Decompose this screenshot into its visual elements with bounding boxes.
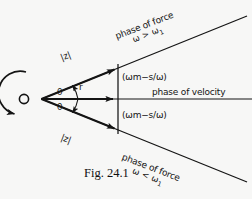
upper-angle-label: θ <box>57 88 62 97</box>
lower-angle-arc <box>73 99 79 113</box>
lower-angle-label: θ <box>57 103 62 112</box>
figure-caption: Fig. 24.1 <box>84 166 129 181</box>
lower-force-subscript: 1 <box>156 180 163 189</box>
upper-impedance-arrow <box>42 70 115 100</box>
lower-reactance-label: (ωm−s/ω) <box>122 111 167 120</box>
velocity-phase-label: phase of velocity <box>152 88 225 97</box>
upper-reactance-label: (ωm−s/ω) <box>122 73 167 82</box>
radius-label: r <box>79 83 83 92</box>
origin-point <box>19 94 28 103</box>
lower-impedance-arrow <box>42 99 115 129</box>
upper-angle-arc <box>73 85 79 99</box>
upper-force-subscript: 1 <box>159 28 166 37</box>
counterclockwise-rotation-arrow <box>0 71 26 114</box>
